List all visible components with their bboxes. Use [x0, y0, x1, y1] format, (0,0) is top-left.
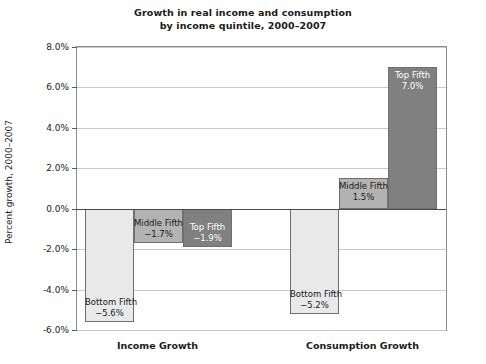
x-axis-group-label: Income Growth	[78, 340, 238, 351]
y-axis-tick-label: -2.0%	[43, 244, 69, 254]
bar[interactable]	[134, 209, 183, 243]
y-axis-tick-mark	[72, 330, 77, 331]
y-axis-tick-mark	[72, 290, 77, 291]
y-axis-tick-label: 2.0%	[46, 163, 69, 173]
y-axis-tick-label: 8.0%	[46, 42, 69, 52]
y-axis-tick-mark	[72, 47, 77, 48]
y-axis-title: Percent growth, 2000–2007	[2, 0, 16, 364]
gridline	[77, 47, 446, 48]
bar[interactable]	[85, 209, 134, 322]
y-axis-title-text: Percent growth, 2000–2007	[4, 120, 14, 244]
bar[interactable]	[183, 209, 232, 247]
chart-title-line-1: Growth in real income and consumption	[0, 6, 486, 19]
y-axis-tick-mark	[72, 87, 77, 88]
y-axis-tick-label: 6.0%	[46, 82, 69, 92]
plot-area: 8.0%6.0%4.0%2.0%0.0%-2.0%-4.0%-6.0% Bott…	[76, 46, 447, 331]
chart-title: Growth in real income and consumption by…	[0, 6, 486, 32]
y-axis-tick-mark	[72, 249, 77, 250]
bar-chart: Growth in real income and consumption by…	[0, 0, 486, 364]
x-axis-group-label: Consumption Growth	[283, 340, 443, 351]
y-axis-tick-mark	[72, 168, 77, 169]
bar[interactable]	[339, 178, 388, 208]
y-axis-tick-label: 0.0%	[46, 204, 69, 214]
zero-baseline	[77, 209, 446, 210]
y-axis-tick-label: 4.0%	[46, 123, 69, 133]
y-axis-tick-mark	[72, 128, 77, 129]
bar[interactable]	[388, 67, 437, 209]
gridline	[77, 330, 446, 331]
y-axis-tick-label: -4.0%	[43, 285, 69, 295]
chart-title-line-2: by income quintile, 2000–2007	[0, 19, 486, 32]
bar[interactable]	[290, 209, 339, 314]
y-axis-tick-label: -6.0%	[43, 325, 69, 335]
